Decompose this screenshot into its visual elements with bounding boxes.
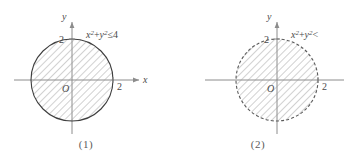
- y-axis-arrowhead: [275, 22, 280, 28]
- inequality-value: 4: [113, 29, 118, 40]
- y-axis-label: y: [266, 11, 272, 22]
- figure-1-caption: (1): [0, 138, 172, 150]
- figure-sheet: 2 2 O x y x2+y2≤4 (1): [0, 0, 344, 167]
- origin-label: O: [62, 83, 69, 94]
- figure-2-caption: (2): [172, 138, 344, 150]
- y-tick-label-2: 2: [264, 34, 269, 45]
- x-axis-label: x: [142, 74, 148, 85]
- figure-2-diagram: 2 2 O y x2+y2<: [172, 0, 344, 140]
- x-tick-label-2: 2: [322, 81, 327, 92]
- x-tick-label-2: 2: [117, 81, 122, 92]
- figure-1-diagram: 2 2 O x y x2+y2≤4: [0, 0, 172, 140]
- figure-panel-1: 2 2 O x y x2+y2≤4 (1): [0, 0, 172, 167]
- y-tick-label-2: 2: [59, 34, 64, 45]
- inequality-annotation: x2+y2<: [290, 29, 319, 40]
- inequality-relation: <: [313, 29, 319, 40]
- y-axis-arrowhead: [70, 22, 75, 28]
- inequality-annotation: x2+y2≤4: [85, 29, 118, 40]
- origin-label: O: [267, 83, 274, 94]
- y-axis-label: y: [61, 11, 67, 22]
- x-axis-arrowhead: [133, 78, 139, 83]
- figure-panel-2: 2 2 O y x2+y2< (2): [172, 0, 344, 167]
